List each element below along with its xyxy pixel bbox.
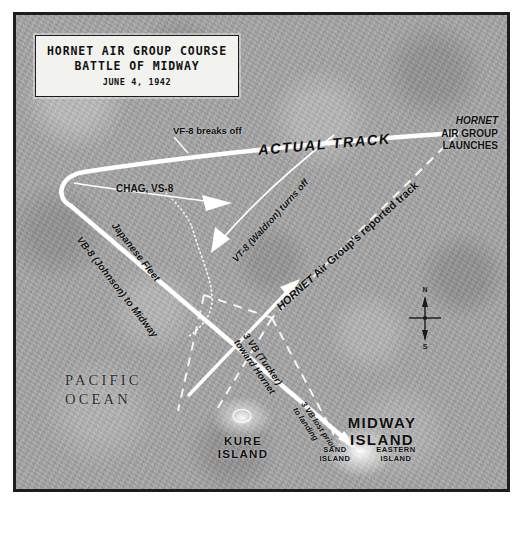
compass-north-label: N — [412, 286, 438, 293]
midway-line-1: MIDWAY — [334, 414, 430, 431]
kure-line-1: KURE — [208, 435, 278, 448]
sand-line-1: SAND — [312, 445, 358, 454]
compass-south-label: S — [412, 343, 438, 350]
chag-vs8-arrowhead — [202, 195, 232, 211]
label-eastern-island: EASTERN ISLAND — [368, 445, 424, 463]
launch-label-line3: LAUNCHES — [436, 140, 498, 153]
ocean-line-2: OCEAN — [65, 390, 142, 409]
title-line-3: JUNE 4, 1942 — [42, 75, 232, 89]
vt8-waldron-arrowhead — [211, 227, 230, 253]
ocean-line-1: PACIFIC — [65, 371, 142, 390]
launch-label-line2: AIR GROUP — [436, 128, 498, 141]
title-line-1: HORNET AIR GROUP COURSE — [42, 44, 232, 59]
reported-track-dashed-crossleg — [204, 295, 272, 318]
kure-line-2: ISLAND — [208, 448, 278, 461]
compass-rose: N S — [412, 287, 438, 349]
map-frame: HORNET AIR GROUP COURSE BATTLE OF MIDWAY… — [13, 12, 510, 492]
label-pacific-ocean: PACIFIC OCEAN — [65, 371, 142, 409]
launch-label-hornet: HORNET — [436, 115, 498, 128]
title-cartouche: HORNET AIR GROUP COURSE BATTLE OF MIDWAY… — [35, 35, 239, 97]
vf8-breakoff-tick — [174, 137, 188, 153]
label-midway-island: MIDWAY ISLAND — [334, 414, 430, 448]
label-chag-vs8: CHAG, VS-8 — [116, 183, 173, 194]
title-line-2: BATTLE OF MIDWAY — [42, 59, 232, 74]
label-hornet-air-group-launches: HORNET AIR GROUP LAUNCHES — [436, 115, 498, 153]
label-kure-island: KURE ISLAND — [208, 435, 278, 461]
label-sand-island: SAND ISLAND — [312, 445, 358, 463]
eastern-line-2: ISLAND — [368, 454, 424, 463]
label-vf8-breaks-off: VF-8 breaks off — [173, 125, 242, 136]
map-page: HORNET AIR GROUP COURSE BATTLE OF MIDWAY… — [0, 0, 523, 536]
sand-line-2: ISLAND — [312, 454, 358, 463]
actual-track-uturn — [61, 172, 84, 206]
eastern-line-1: EASTERN — [368, 445, 424, 454]
